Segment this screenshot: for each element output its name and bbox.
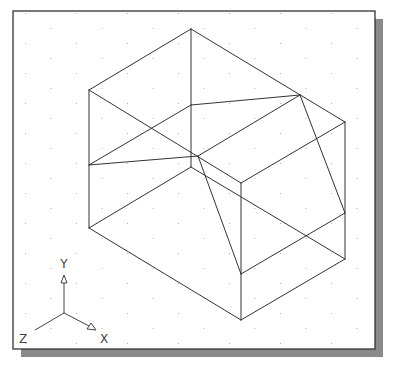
drawing-viewport[interactable]: X Y Z (0, 0, 394, 369)
y-axis-label: Y (59, 257, 68, 271)
viewport-frame (13, 11, 375, 349)
x-axis-label: X (100, 332, 108, 346)
z-axis-label: Z (19, 332, 27, 346)
